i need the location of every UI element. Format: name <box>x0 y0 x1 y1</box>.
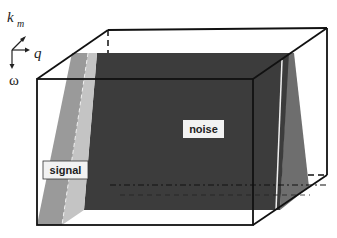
axis-label-q: q <box>34 45 42 61</box>
cube-diagram: k m q ω noise signal <box>0 0 337 238</box>
axis-label-omega: ω <box>9 72 19 88</box>
svg-text:noise: noise <box>189 123 218 135</box>
axis-label-km: k <box>7 9 14 25</box>
axis-indicator <box>10 36 31 69</box>
signal-label: signal <box>43 161 88 179</box>
noise-label: noise <box>183 120 224 138</box>
svg-text:signal: signal <box>50 164 82 176</box>
axis-label-km-subscript: m <box>17 18 24 29</box>
